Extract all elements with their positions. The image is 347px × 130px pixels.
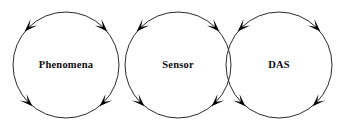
node-label-sensor: Sensor [162, 60, 194, 71]
node-label-phenomena: Phenomena [39, 60, 93, 71]
diagram-canvas: Phenomena Sensor DAS [0, 0, 347, 130]
node-label-das: DAS [268, 60, 290, 71]
